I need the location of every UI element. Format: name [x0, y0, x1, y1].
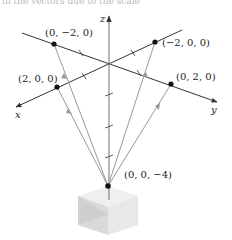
caption-fragment: in the vectors due to the scale	[2, 0, 140, 6]
point-apex	[105, 183, 111, 189]
vector-to-x-neg	[108, 42, 155, 186]
point-y-neg	[51, 41, 56, 46]
label-x-pos: (2, 0, 0)	[18, 73, 58, 84]
x-axis-label: x	[15, 109, 21, 120]
cube	[78, 186, 138, 235]
vector-to-y-neg	[54, 44, 108, 186]
vector-arrow	[66, 108, 72, 114]
z-axis-label: z	[99, 13, 106, 24]
tick	[137, 70, 141, 76]
vectors	[54, 42, 171, 186]
vector-to-x-pos	[57, 87, 108, 186]
point-x-pos	[54, 84, 59, 89]
3d-vector-diagram: in the vectors due to the scale	[0, 0, 232, 240]
label-y-neg: (0, −2, 0)	[45, 27, 93, 38]
label-apex: (0, 0, −4)	[124, 169, 172, 180]
label-y-pos: (0, 2, 0)	[176, 71, 216, 82]
y-axis-label: y	[210, 104, 217, 115]
label-x-neg: (−2, 0, 0)	[162, 37, 210, 48]
point-y-pos	[168, 81, 173, 86]
point-x-neg	[152, 39, 157, 44]
